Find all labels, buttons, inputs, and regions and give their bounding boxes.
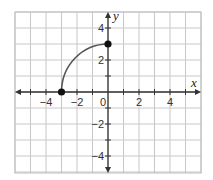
chart-container: −4−202442−2−4 x y: [0, 0, 213, 180]
x-tick-label: −2: [71, 96, 84, 108]
x-axis-label: x: [190, 75, 197, 90]
y-axis-label: y: [111, 8, 119, 23]
endpoint-dot: [58, 88, 65, 95]
endpoints: [58, 40, 112, 95]
coordinate-plane: −4−202442−2−4 x y: [0, 0, 213, 180]
x-tick-label: 0: [100, 96, 106, 108]
axes: [15, 12, 201, 173]
x-tick-label: 4: [167, 96, 173, 108]
curve-arc: [62, 44, 109, 92]
y-tick-label: 4: [98, 22, 104, 34]
y-tick-label: −4: [91, 150, 104, 162]
y-axis-arrow-up-icon: [105, 12, 111, 18]
endpoint-dot: [104, 40, 111, 47]
y-tick-label: 2: [98, 54, 104, 66]
x-tick-label: −4: [40, 96, 53, 108]
x-tick-label: 2: [136, 96, 142, 108]
x-axis-arrow-left-icon: [15, 89, 21, 95]
y-tick-label: −2: [91, 118, 104, 130]
